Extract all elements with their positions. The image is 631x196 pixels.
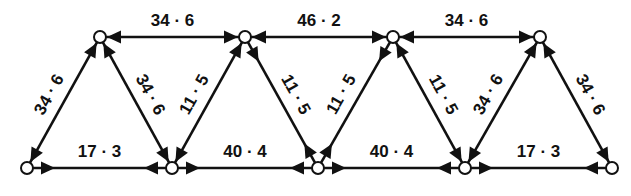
- force-label: 40 · 4: [223, 142, 267, 161]
- truss-diagram: 34 · 646 · 234 · 617 · 340 · 440 · 417 ·…: [0, 0, 631, 196]
- force-arrow-icon: [372, 31, 386, 44]
- force-arrow-icon: [290, 162, 304, 175]
- force-arrow-icon: [41, 162, 55, 175]
- joint-node: [387, 31, 399, 43]
- force-label: 11 · 5: [322, 71, 360, 117]
- force-label: 40 · 4: [370, 142, 414, 161]
- force-arrow-icon: [186, 162, 200, 175]
- force-label: 17 · 3: [78, 142, 121, 161]
- force-arrow-icon: [144, 162, 158, 175]
- force-arrow-icon: [519, 31, 533, 44]
- force-arrow-icon: [107, 31, 121, 44]
- force-label: 11 · 5: [175, 71, 212, 117]
- force-arrow-icon: [332, 162, 346, 175]
- joint-node: [94, 31, 106, 43]
- joint-node: [21, 162, 33, 174]
- force-arrow-icon: [252, 31, 266, 44]
- force-label: 34 · 6: [469, 71, 507, 118]
- force-label: 17 · 3: [517, 142, 560, 161]
- joint-node: [606, 162, 618, 174]
- force-label: 11 · 5: [425, 71, 462, 117]
- joint-node: [312, 162, 324, 174]
- force-label: 34 · 6: [132, 71, 170, 118]
- joint-node: [239, 31, 251, 43]
- force-label: 34 · 6: [445, 11, 488, 30]
- force-label: 34 · 6: [572, 71, 610, 118]
- force-label: 34 · 6: [151, 11, 194, 30]
- force-label: 11 · 5: [277, 71, 314, 117]
- joint-node: [459, 162, 471, 174]
- force-label: 46 · 2: [297, 11, 340, 30]
- force-arrow-icon: [224, 31, 238, 44]
- force-arrow-icon: [400, 31, 414, 44]
- joint-node: [166, 162, 178, 174]
- force-arrow-icon: [437, 162, 451, 175]
- joint-node: [534, 31, 546, 43]
- force-arrow-icon: [479, 162, 493, 175]
- force-label: 34 · 6: [30, 71, 68, 118]
- force-arrow-icon: [584, 162, 598, 175]
